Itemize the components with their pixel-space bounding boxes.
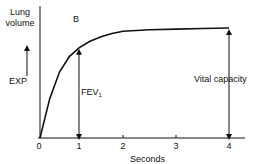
exp-label: EXP [9,76,27,86]
vital-capacity-label: Vital capacity [194,74,247,84]
xlabel: Seconds [130,154,166,164]
x-tick-label: 3 [173,141,178,151]
panel-label: B [73,14,79,24]
x-tick-label: 2 [120,141,125,151]
x-tick-label: 0 [36,141,41,151]
x-tick-label: 4 [226,141,231,151]
fev1-label: FEV1 [81,87,103,98]
ylabel-line2: volume [5,18,34,28]
x-tick-label: 1 [76,141,81,151]
fev-chart: 01234 Lung volume EXP B FEV1 Vital capac… [0,0,260,164]
ylabel-line1: Lung [10,7,30,17]
